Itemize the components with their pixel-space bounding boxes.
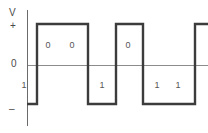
waveform-canvas: [0, 0, 208, 133]
bit-label-1: 0: [42, 41, 54, 50]
bit-label-5: 1: [151, 81, 163, 90]
waveform-figure: V + 0 – 1001011: [0, 0, 208, 133]
bit-label-4: 0: [122, 41, 134, 50]
bit-label-0: 1: [18, 81, 30, 90]
bit-label-2: 0: [66, 41, 78, 50]
axis-label-voltage: V: [9, 8, 16, 18]
axis-label-negative: –: [9, 104, 15, 114]
axis-label-zero: 0: [11, 59, 17, 69]
signal-waveform-trace: [27, 24, 208, 104]
axis-label-positive: +: [10, 21, 16, 31]
bit-label-3: 1: [96, 81, 108, 90]
bit-label-6: 1: [172, 81, 184, 90]
